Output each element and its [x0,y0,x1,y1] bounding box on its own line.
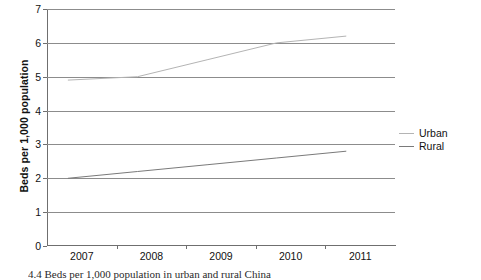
series-line-rural [68,151,346,178]
y-axis-title: Beds per 1,000 population [18,36,30,216]
figure-caption: 4.4 Beds per 1,000 population in urban a… [28,268,480,280]
legend-item-urban[interactable]: Urban [399,127,477,140]
y-tick-label: 4 [35,105,41,116]
y-tick-label: 6 [35,38,41,49]
legend-line-icon [399,146,414,147]
figure: Beds per 1,000 population 01234567 20072… [0,0,481,280]
y-tick-label: 7 [35,4,41,15]
y-tick-mark [43,246,47,247]
y-tick-label: 0 [35,241,41,252]
y-tick-label: 5 [35,71,41,82]
x-tick-label-2007: 2007 [70,251,93,262]
x-tick-label-2010: 2010 [279,251,302,262]
legend: UrbanRural [399,127,477,153]
legend-item-label: Urban [419,128,448,139]
legend-item-label: Rural [419,141,444,152]
plot-area: 01234567 20072008200920102011 [47,9,395,246]
legend-item-rural[interactable]: Rural [399,140,477,153]
x-tick-label-2008: 2008 [140,251,163,262]
series-plot [47,9,395,246]
y-tick-label: 1 [35,207,41,218]
x-tick-label-2011: 2011 [349,251,372,262]
y-tick-label: 2 [35,173,41,184]
x-tick-label-2009: 2009 [209,251,232,262]
series-line-urban [68,36,346,80]
legend-line-icon [399,133,414,134]
y-tick-label: 3 [35,139,41,150]
